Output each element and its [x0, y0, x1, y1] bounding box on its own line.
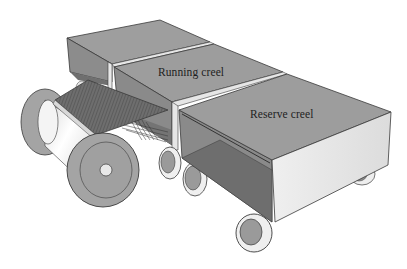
front-wheel: [236, 214, 272, 252]
warp-beam-front-flange: [67, 133, 139, 207]
creel-diagram: Running creel Reserve creel: [0, 0, 407, 269]
reserve-creel-label: Reserve creel: [250, 108, 314, 120]
running-creel-label: Running creel: [158, 66, 224, 78]
diagram-canvas: [0, 0, 407, 269]
middle-wheel-1: [159, 147, 181, 179]
